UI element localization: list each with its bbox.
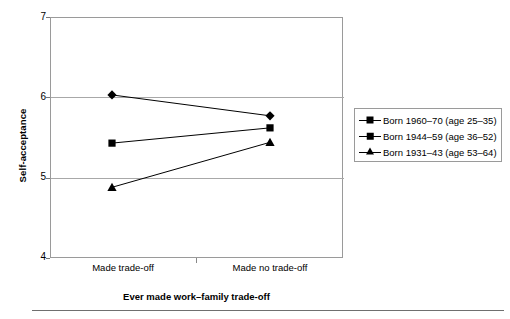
- legend-label-1: Born 1944–59 (age 36–52): [381, 131, 497, 142]
- legend-label-2: Born 1931–43 (age 53–64): [381, 147, 497, 158]
- bottom-divider: [32, 310, 504, 311]
- y-tick-label-6: 6: [16, 92, 46, 102]
- y-tick-label-7: 7: [16, 12, 46, 22]
- legend-key-0: [359, 113, 381, 127]
- diamond-marker-icon: [367, 117, 374, 124]
- legend: Born 1960–70 (age 25–35) Born 1944–59 (a…: [354, 108, 502, 162]
- plot-area: [50, 17, 343, 258]
- chart-figure: Self-acceptance 7 6 5 4 Made trade-off M…: [0, 0, 510, 319]
- x-tick-label-made-trade-off: Made trade-off: [50, 262, 196, 273]
- y-axis-title: Self-acceptance: [17, 86, 28, 206]
- x-tick-label-made-no-trade-off: Made no trade-off: [197, 262, 343, 273]
- y-tick-mark-4: [46, 258, 50, 259]
- triangle-marker-icon: [366, 148, 374, 155]
- gridline-5: [51, 178, 344, 179]
- legend-key-1: [359, 129, 381, 143]
- legend-item-2: Born 1931–43 (age 53–64): [359, 144, 497, 160]
- legend-label-0: Born 1960–70 (age 25–35): [381, 115, 497, 126]
- legend-item-1: Born 1944–59 (age 36–52): [359, 128, 497, 144]
- square-marker-icon: [367, 133, 374, 140]
- y-tick-label-4: 4: [16, 252, 46, 262]
- legend-item-0: Born 1960–70 (age 25–35): [359, 112, 497, 128]
- legend-key-2: [359, 145, 381, 159]
- gridline-6: [51, 97, 344, 98]
- y-tick-label-5: 5: [16, 172, 46, 182]
- x-axis-title: Ever made work–family trade-off: [50, 291, 343, 302]
